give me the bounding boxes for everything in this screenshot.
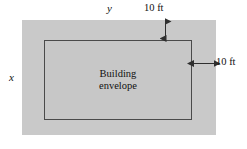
building-envelope-rectangle: Building envelope [44,40,192,120]
building-envelope-label-line2: envelope [45,80,191,92]
lot-width-label: y [107,2,112,14]
building-envelope-label: Building envelope [45,68,191,92]
building-envelope-diagram: Building envelope y x 10 f [0,0,247,149]
building-envelope-label-line1: Building [45,68,191,80]
setback-top-label: 10 ft [144,2,164,13]
lot-height-label: x [9,71,14,83]
setback-right-label: 10 ft [216,56,236,67]
